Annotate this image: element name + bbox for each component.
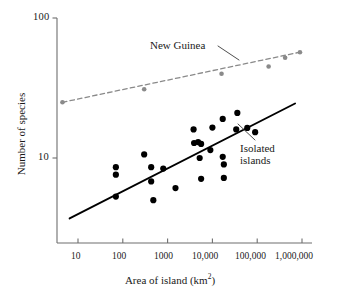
data-point — [197, 155, 203, 161]
data-point — [221, 175, 227, 181]
data-point — [150, 197, 156, 203]
data-point — [172, 185, 178, 191]
x-axis-title-end: ) — [211, 274, 215, 286]
data-point — [220, 154, 226, 160]
data-point — [266, 64, 271, 69]
annotation-isolated-line2: islands — [240, 154, 275, 166]
data-point — [234, 110, 240, 116]
species-area-figure: 100 10 10 100 1000 10,000 100,000 1,000,… — [0, 0, 340, 296]
x-tick-label-10: 10 — [71, 252, 81, 262]
y-tick-label-10: 10 — [38, 152, 49, 163]
x-axis-title-main: Area of island (km — [125, 274, 208, 286]
x-tick-label-100: 100 — [112, 252, 126, 262]
data-point — [233, 126, 239, 132]
data-point — [142, 87, 147, 92]
annotation-isolated-islands: Isolated islands — [240, 142, 275, 166]
data-point — [141, 151, 147, 157]
data-point — [219, 71, 224, 76]
axis-lines — [53, 18, 313, 243]
data-point — [209, 124, 215, 130]
data-point — [252, 129, 258, 135]
data-point — [298, 50, 303, 55]
data-point — [190, 126, 196, 132]
data-point — [207, 147, 213, 153]
data-point — [113, 194, 119, 200]
data-point — [244, 125, 250, 131]
x-tick-label-1000: 1000 — [154, 252, 173, 262]
trend-lines — [62, 52, 299, 218]
data-point — [283, 55, 288, 60]
data-point — [60, 100, 65, 105]
x-axis-title: Area of island (km2) — [0, 272, 340, 286]
x-tick-label-1000000: 1,000,000 — [275, 252, 313, 262]
data-point — [220, 116, 226, 122]
data-point — [160, 166, 166, 172]
data-points — [60, 50, 302, 203]
data-point — [198, 141, 204, 147]
y-axis-title: Number of species — [15, 69, 27, 199]
annotation-isolated-line1: Isolated — [240, 142, 275, 154]
data-point — [148, 164, 154, 170]
x-tick-label-10000: 10,000 — [192, 252, 218, 262]
x-tick-label-100000: 100,000 — [235, 252, 266, 262]
annotation-new-guinea: New Guinea — [150, 39, 205, 51]
data-point — [113, 164, 119, 170]
data-point — [221, 161, 227, 167]
data-point — [198, 176, 204, 182]
data-point — [113, 172, 119, 178]
data-point — [148, 178, 154, 184]
y-tick-label-100: 100 — [33, 12, 49, 23]
